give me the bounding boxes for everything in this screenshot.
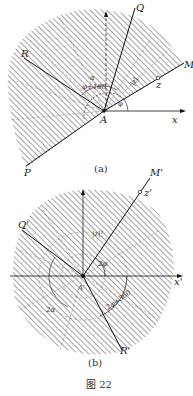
label-2alpha: 2α — [45, 306, 55, 314]
label-r: R — [20, 48, 29, 59]
label-m-prime: M' — [149, 167, 163, 178]
label-a-prime: A' — [77, 284, 85, 292]
label-x: x — [172, 114, 178, 125]
figure-22: Q R M P A x z α φ+180 φ |z| (a) — [0, 0, 193, 396]
label-q-prime: Q' — [18, 219, 29, 230]
label-2phi: 2φ — [97, 260, 107, 268]
caption-b: (b) — [88, 357, 102, 368]
label-a: A — [99, 114, 107, 125]
label-z-abs-sq: |z|² — [92, 230, 103, 238]
figure-caption: 图 22 — [86, 379, 112, 390]
hatched-region-b — [13, 190, 174, 355]
label-r-prime: R' — [119, 345, 130, 356]
point-a — [102, 109, 106, 113]
label-p: P — [23, 167, 31, 178]
point-z-prime — [138, 190, 142, 194]
panel-b: M' z' Q' R' x' A' 2φ 2α 2φ+360 |z|² (b) — [10, 167, 183, 368]
panel-a: Q R M P A x z α φ+180 φ |z| (a) — [8, 2, 193, 178]
label-alpha: α — [90, 74, 95, 82]
x-axis-arrow-icon — [180, 109, 186, 113]
label-phi: φ — [118, 100, 123, 108]
label-z-prime: z' — [143, 187, 152, 198]
label-q: Q — [136, 2, 144, 13]
caption-a: (a) — [94, 163, 108, 174]
label-m: M — [183, 59, 193, 70]
label-z: z — [155, 79, 162, 90]
label-phi-plus-180: φ+180 — [82, 83, 107, 91]
label-x-prime: x' — [174, 276, 182, 287]
point-a-prime — [81, 274, 85, 278]
angle-phi-arc — [124, 99, 128, 111]
